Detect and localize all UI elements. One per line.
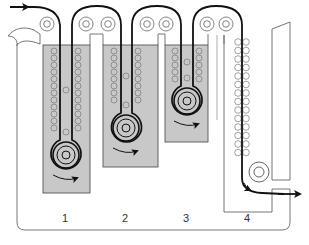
tank-rim-1-2 (90, 34, 103, 45)
dryer-roller-icon (235, 98, 242, 105)
film-processor-diagram: 1234 (0, 0, 309, 245)
tank-3-wall (208, 34, 224, 45)
dryer-roller-icon (235, 64, 242, 71)
dryer-roller-icon (235, 56, 242, 63)
tank-1-bath (43, 45, 90, 193)
tank-rim-2-3 (158, 34, 165, 45)
diagram-canvas (0, 0, 309, 245)
dryer-roller-icon (235, 132, 242, 139)
dryer-roller-icon (243, 81, 250, 88)
exit-roller-icon (249, 162, 269, 182)
dryer-slot (272, 22, 290, 180)
top-roller-icon (140, 17, 154, 31)
dryer-roller-icon (235, 141, 242, 148)
dryer-roller-icon (243, 107, 250, 114)
dryer-roller-icon (235, 124, 242, 131)
dryer-roller-icon (243, 39, 250, 46)
tank-label-3: 3 (183, 212, 189, 224)
top-roller-icon (79, 17, 93, 31)
tank-label-1: 1 (62, 212, 68, 224)
dryer-roller-icon (243, 90, 250, 97)
dryer-roller-icon (235, 73, 242, 80)
tank-1 (43, 45, 90, 193)
dryer-roller-icon (243, 56, 250, 63)
dryer-roller-icon (235, 81, 242, 88)
dryer-roller-icon (243, 115, 250, 122)
top-roller-icon (101, 17, 115, 31)
top-roller-icon (219, 17, 233, 31)
dryer-roller-icon (243, 64, 250, 71)
dryer-roller-icon (235, 107, 242, 114)
dryer-roller-icon (243, 47, 250, 54)
tank-2 (103, 45, 158, 167)
dryer-roller-icon (243, 149, 250, 156)
tank-4-dryer (235, 39, 269, 182)
dryer-roller-icon (235, 149, 242, 156)
top-roller-icon (200, 17, 214, 31)
top-roller-icon (40, 17, 54, 31)
dryer-roller-icon (235, 47, 242, 54)
dryer-roller-icon (235, 115, 242, 122)
dryer-roller-icon (243, 124, 250, 131)
dryer-roller-icon (235, 90, 242, 97)
tank-label-4: 4 (244, 212, 250, 224)
dryer-roller-icon (243, 98, 250, 105)
top-roller-icon (159, 17, 173, 31)
tank-label-2: 2 (122, 212, 128, 224)
dryer-roller-icon (235, 39, 242, 46)
dryer-roller-icon (243, 132, 250, 139)
frame-hook (8, 36, 17, 46)
dryer-roller-icon (243, 141, 250, 148)
dryer-roller-icon (243, 73, 250, 80)
